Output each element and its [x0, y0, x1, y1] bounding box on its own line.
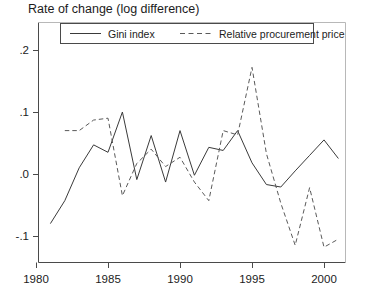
line-chart-plot: -.1.0.1.2 19801985199019952000 Gini inde…: [0, 0, 366, 299]
y-tick-label: .1: [19, 106, 29, 118]
x-tick-label: 1985: [95, 273, 121, 285]
data-series-layer: [50, 67, 338, 247]
legend-label-gini-index: Gini index: [108, 28, 155, 40]
y-tick-label: .2: [19, 44, 29, 56]
x-axis-ticks: 19801985199019952000: [23, 263, 337, 286]
y-tick-label: .0: [19, 168, 29, 180]
y-axis-ticks: -.1.0.1.2: [16, 44, 39, 242]
x-tick-label: 1995: [239, 273, 265, 285]
chart-legend: Gini index Relative procurement price: [61, 24, 345, 44]
x-tick-label: 1990: [167, 273, 193, 285]
x-tick-label: 2000: [311, 273, 337, 285]
series-line-gini-index: [50, 112, 338, 224]
series-line-relative-procurement-price: [65, 67, 339, 247]
x-tick-label: 1980: [23, 273, 49, 285]
chart-figure: Rate of change (log difference) -.1.0.1.…: [0, 0, 366, 299]
y-tick-label: -.1: [16, 230, 29, 242]
legend-label-relative-procurement-price: Relative procurement price: [219, 28, 345, 40]
